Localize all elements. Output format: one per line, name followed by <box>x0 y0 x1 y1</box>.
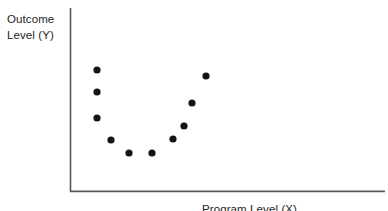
data-point <box>93 66 100 73</box>
data-point <box>107 136 114 143</box>
data-point <box>93 88 100 95</box>
chart-screenshot: Outcome Level (Y) Program Level (X) <box>0 0 388 211</box>
data-point <box>169 135 176 142</box>
data-points <box>93 66 209 156</box>
data-point <box>148 149 155 156</box>
scatter-plot <box>0 0 388 211</box>
data-point <box>180 122 187 129</box>
x-axis-label: Program Level (X) <box>202 203 297 211</box>
data-point <box>93 114 100 121</box>
data-point <box>125 149 132 156</box>
data-point <box>202 72 209 79</box>
axes <box>70 8 385 192</box>
data-point <box>188 99 195 106</box>
